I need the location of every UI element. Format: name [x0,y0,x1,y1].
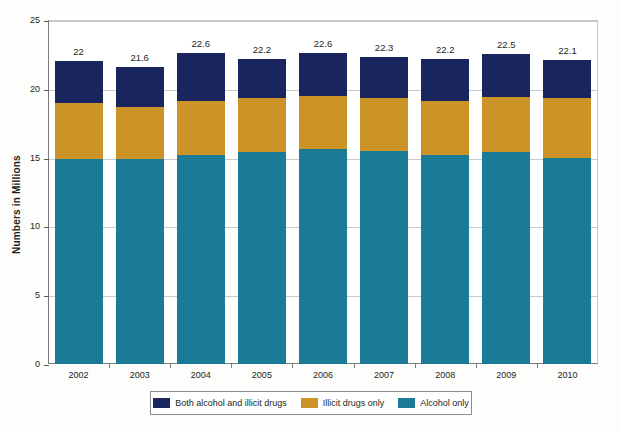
bar-total-label: 21.6 [130,52,149,63]
bar-segment[interactable] [482,97,530,152]
bar-segment[interactable] [543,60,591,99]
bar-segment[interactable] [543,158,591,364]
x-axis-tick-label: 2007 [374,370,394,380]
bar-group[interactable]: 22.2 [421,20,469,364]
x-axis-tick-label: 2003 [130,370,150,380]
x-axis-tick [170,364,171,368]
x-axis-tick-label: 2005 [252,370,272,380]
bar-segment[interactable] [299,53,347,96]
bar-segment[interactable] [116,67,164,107]
x-axis-tick-label: 2009 [496,370,516,380]
y-axis-tick-label: 10 [30,221,40,231]
bar-total-label: 22.6 [314,38,333,49]
y-axis-tick-label: 15 [30,153,40,163]
x-axis-tick [476,364,477,368]
legend-label: Both alcohol and illicit drugs [175,398,287,408]
bar-segment[interactable] [360,98,408,150]
legend-label: Illicit drugs only [323,398,385,408]
bar-segment[interactable] [360,57,408,98]
x-axis-tick-label: 2002 [69,370,89,380]
x-axis-tick-label: 2004 [191,370,211,380]
bar-segment[interactable] [421,59,469,102]
bar-segment[interactable] [116,159,164,364]
bar-segment[interactable] [238,59,286,99]
x-axis-tick-label: 2010 [557,370,577,380]
y-axis-tick-label: 20 [30,84,40,94]
legend-label: Alcohol only [420,398,469,408]
bar-group[interactable]: 21.6 [116,20,164,364]
x-axis-tick [537,364,538,368]
bar-total-label: 22.6 [192,38,211,49]
x-axis-labels: 200220032004200520062007200820092010 [48,368,598,386]
bar-total-label: 22.3 [375,42,394,53]
y-axis-labels: 0510152025 [0,0,44,432]
y-axis-tick [44,365,49,366]
bar-group[interactable]: 22.6 [299,20,347,364]
x-axis-tick [415,364,416,368]
legend-swatch-icon [301,398,318,408]
chart-legend: Both alcohol and illicit drugsIllicit dr… [150,391,472,415]
y-axis-tick-label: 5 [35,290,40,300]
bar-group[interactable]: 22.2 [238,20,286,364]
bar-total-label: 22.2 [436,44,455,55]
bar-total-label: 22.1 [558,45,577,56]
bar-group[interactable]: 22.3 [360,20,408,364]
bar-total-label: 22 [73,46,84,57]
bar-group[interactable]: 22.1 [543,20,591,364]
y-axis-tick-label: 25 [30,15,40,25]
bar-group[interactable]: 22.5 [482,20,530,364]
stacked-bar-chart: Numbers in Millions 0510152025 2221.622.… [0,0,619,432]
bar-segment[interactable] [177,53,225,101]
bar-segment[interactable] [482,152,530,364]
bar-segment[interactable] [360,151,408,364]
y-axis-tick-label: 0 [35,359,40,369]
bars-layer: 2221.622.622.222.622.322.222.522.1 [48,20,598,364]
bar-total-label: 22.2 [253,44,272,55]
bar-segment[interactable] [543,98,591,157]
bar-segment[interactable] [238,98,286,152]
bar-segment[interactable] [299,96,347,150]
x-axis-tick [354,364,355,368]
bar-group[interactable]: 22.6 [177,20,225,364]
legend-item[interactable]: Both alcohol and illicit drugs [153,398,287,408]
bar-total-label: 22.5 [497,39,516,50]
bar-segment[interactable] [177,101,225,155]
x-axis-tick [231,364,232,368]
bar-segment[interactable] [421,155,469,364]
bar-group[interactable]: 22 [55,20,103,364]
bar-segment[interactable] [238,152,286,364]
bar-segment[interactable] [177,155,225,364]
legend-swatch-icon [398,398,415,408]
legend-item[interactable]: Illicit drugs only [301,398,385,408]
bar-segment[interactable] [55,159,103,364]
legend-item[interactable]: Alcohol only [398,398,469,408]
legend-swatch-icon [153,398,170,408]
bar-segment[interactable] [421,101,469,155]
x-axis-tick [292,364,293,368]
bar-segment[interactable] [482,54,530,97]
x-axis-tick-label: 2006 [313,370,333,380]
x-axis-tick-label: 2008 [435,370,455,380]
bar-segment[interactable] [55,103,103,159]
bar-segment[interactable] [116,107,164,159]
bar-segment[interactable] [299,149,347,364]
x-axis-tick [109,364,110,368]
bar-segment[interactable] [55,61,103,102]
